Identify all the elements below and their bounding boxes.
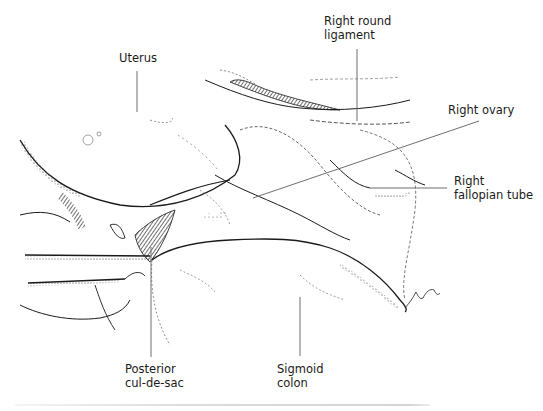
label-right-round-ligament: Right round ligament: [324, 14, 391, 42]
label-uterus: Uterus: [119, 51, 157, 65]
leader-lines: [137, 49, 479, 357]
fallopian-tube-shape: [360, 130, 425, 300]
label-sigmoid-colon-line2: colon: [277, 376, 324, 390]
label-right-fallopian-tube-line2: fallopian tube: [454, 188, 533, 202]
label-right-ovary-text: Right ovary: [448, 103, 514, 117]
uterus-shape: [20, 118, 240, 207]
label-sigmoid-colon-line1: Sigmoid: [277, 362, 324, 376]
probe-instrument: [25, 255, 150, 285]
leader-right-ovary: [253, 121, 479, 198]
label-right-ovary: Right ovary: [448, 103, 514, 117]
round-ligament-shape: [205, 70, 410, 124]
bottom-divider: [15, 404, 430, 406]
label-uterus-text: Uterus: [119, 51, 157, 65]
label-right-round-ligament-line2: ligament: [324, 28, 391, 42]
bowel-loops-left: [20, 212, 130, 330]
label-posterior-cul-de-sac-line2: cul-de-sac: [125, 376, 184, 390]
illustration-canvas: Uterus Right round ligament Right ovary …: [0, 0, 543, 411]
label-posterior-cul-de-sac: Posterior cul-de-sac: [125, 362, 184, 390]
anatomy-drawing: [0, 0, 543, 411]
artist-signature: [405, 289, 440, 308]
label-sigmoid-colon: Sigmoid colon: [277, 362, 324, 390]
sigmoid-colon-shape: [152, 239, 407, 345]
ovary-shape: [150, 127, 380, 240]
label-posterior-cul-de-sac-line1: Posterior: [125, 362, 184, 376]
label-right-fallopian-tube: Right fallopian tube: [454, 174, 533, 202]
label-right-fallopian-tube-line1: Right: [454, 174, 533, 188]
label-right-round-ligament-line1: Right round: [324, 14, 391, 28]
